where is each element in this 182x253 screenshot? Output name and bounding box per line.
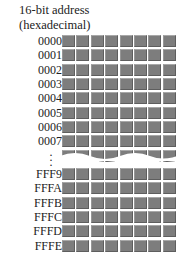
bit-cell <box>105 64 118 76</box>
bit-cell <box>163 78 176 90</box>
memory-row: FFFC <box>0 210 182 224</box>
bit-cell <box>163 182 176 194</box>
bit-cell <box>105 211 118 223</box>
bit-cell <box>62 197 75 209</box>
bit-cell <box>134 107 147 119</box>
bit-cell <box>62 211 75 223</box>
bit-cells <box>62 35 176 47</box>
bit-cell <box>163 35 176 47</box>
bit-cell <box>120 35 133 47</box>
bit-cell <box>148 211 161 223</box>
bit-cell <box>134 92 147 104</box>
bit-cell <box>163 92 176 104</box>
bit-cell <box>120 211 133 223</box>
bit-cell <box>76 107 89 119</box>
bit-cell <box>105 92 118 104</box>
break-wave-icon <box>60 150 182 172</box>
bit-cell <box>76 92 89 104</box>
bit-cell <box>105 135 118 147</box>
bit-cell <box>76 240 89 252</box>
memory-row: 0000 <box>0 34 182 48</box>
bit-cell <box>148 135 161 147</box>
address-label: 0002 <box>38 63 62 77</box>
bit-cell <box>148 49 161 61</box>
bit-cell <box>62 78 75 90</box>
address-label: 0004 <box>38 91 62 105</box>
bit-cell <box>91 49 104 61</box>
bit-cell <box>91 107 104 119</box>
bit-cell <box>163 197 176 209</box>
memory-row: FFFB <box>0 196 182 210</box>
bit-cell <box>120 240 133 252</box>
ellipsis: ··· <box>49 153 53 168</box>
bit-cell <box>120 64 133 76</box>
bit-cell <box>120 107 133 119</box>
bit-cell <box>76 78 89 90</box>
address-label: FFFB <box>34 196 62 210</box>
memory-row: FFFD <box>0 224 182 238</box>
bit-cell <box>148 225 161 237</box>
bit-cell <box>163 225 176 237</box>
address-label: FFFD <box>33 224 62 238</box>
bit-cell <box>134 35 147 47</box>
bit-cell <box>91 211 104 223</box>
bit-cell <box>120 49 133 61</box>
bit-cell <box>134 182 147 194</box>
bit-cell <box>62 121 75 133</box>
bit-cell <box>91 197 104 209</box>
bit-cell <box>105 49 118 61</box>
bit-cells <box>62 211 176 223</box>
memory-row: 0003 <box>0 77 182 91</box>
address-title: 16-bit address (hexadecimal) <box>19 3 90 33</box>
bit-cell <box>148 107 161 119</box>
memory-row: 0007 <box>0 134 182 148</box>
bit-cell <box>105 107 118 119</box>
bit-cell <box>62 49 75 61</box>
address-label: FFFC <box>34 210 62 224</box>
bit-cell <box>62 107 75 119</box>
bit-cell <box>91 64 104 76</box>
bit-cells <box>62 135 176 147</box>
bit-cell <box>148 197 161 209</box>
bit-cell <box>91 182 104 194</box>
bit-cell <box>148 121 161 133</box>
bit-cell <box>148 240 161 252</box>
bit-cell <box>134 197 147 209</box>
address-label: 0003 <box>38 77 62 91</box>
memory-row: 0002 <box>0 63 182 77</box>
bit-cell <box>134 121 147 133</box>
memory-row: 0001 <box>0 48 182 62</box>
bit-cell <box>134 211 147 223</box>
bit-cell <box>105 78 118 90</box>
bit-cell <box>105 35 118 47</box>
bit-cell <box>105 240 118 252</box>
bit-cell <box>91 225 104 237</box>
bit-cell <box>163 211 176 223</box>
bit-cell <box>76 121 89 133</box>
title-line-2: (hexadecimal) <box>19 18 90 33</box>
bit-cell <box>163 49 176 61</box>
bit-cell <box>120 121 133 133</box>
bit-cell <box>148 64 161 76</box>
bit-cells <box>62 107 176 119</box>
bit-cell <box>91 121 104 133</box>
bit-cell <box>105 225 118 237</box>
bit-cell <box>105 197 118 209</box>
address-label: 0007 <box>38 134 62 148</box>
bit-cell <box>120 225 133 237</box>
bit-cell <box>76 197 89 209</box>
bit-cell <box>163 64 176 76</box>
bit-cell <box>62 92 75 104</box>
bit-cell <box>105 182 118 194</box>
bit-cells <box>62 92 176 104</box>
address-label: FFFE <box>35 239 62 253</box>
bit-cell <box>76 225 89 237</box>
address-label: 0005 <box>38 106 62 120</box>
bit-cell <box>134 225 147 237</box>
memory-row: FFFA <box>0 181 182 195</box>
title-line-1: 16-bit address <box>19 3 90 18</box>
bit-cells <box>62 78 176 90</box>
bit-cell <box>163 240 176 252</box>
bit-cell <box>148 78 161 90</box>
bit-cell <box>134 78 147 90</box>
